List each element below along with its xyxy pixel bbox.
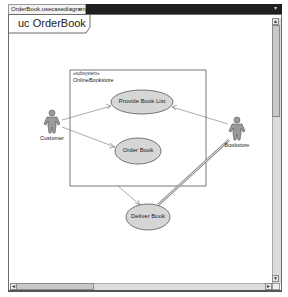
use-case-label-deliver-book: Deliver Book xyxy=(126,213,170,219)
scroll-down-button[interactable]: ▼ xyxy=(272,275,279,282)
use-case-label-order-book: Order Book xyxy=(115,147,161,153)
association-system-deliverbook xyxy=(118,186,140,205)
scrollbar-corner xyxy=(272,283,280,290)
actor-bookstore-icon[interactable] xyxy=(229,117,245,140)
frame-bottom-border xyxy=(8,290,282,292)
scroll-up-button[interactable]: ▲ xyxy=(272,18,279,25)
use-case-label-provide-book-list: Provide Book List xyxy=(111,98,173,104)
actor-label-bookstore: Bookstore xyxy=(221,142,253,148)
vertical-scroll-thumb[interactable] xyxy=(272,25,280,117)
system-boundary[interactable] xyxy=(70,70,206,186)
scroll-right-button[interactable]: ► xyxy=(265,283,272,290)
actor-label-customer: Customer xyxy=(36,135,68,141)
diagram-title: uc OrderBook xyxy=(18,17,86,29)
horizontal-scroll-thumb[interactable] xyxy=(16,283,94,290)
system-name: OnlineBookstore xyxy=(73,77,114,83)
system-stereotype: «subsystem» xyxy=(73,71,100,76)
actor-customer-icon[interactable] xyxy=(44,110,60,133)
